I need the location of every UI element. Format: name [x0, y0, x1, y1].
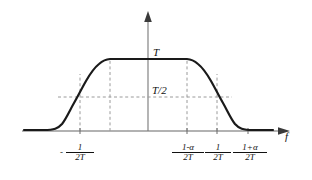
- minus-sign-icon: -: [60, 148, 63, 157]
- y-axis-label-T-half: T/2: [152, 85, 167, 96]
- y-axis-arrow-icon: [144, 11, 152, 22]
- fraction-denominator: 2T: [205, 153, 231, 162]
- fraction-denominator: 2T: [172, 153, 204, 162]
- y-axis-label-T: T: [153, 47, 159, 58]
- x-tick-label-1-over-2T: 1 2T: [205, 143, 231, 163]
- x-axis-arrow-icon: [278, 127, 290, 135]
- x-tick-label-1-plus-alpha-over-2T: 1+α 2T: [233, 143, 267, 163]
- fraction-denominator: 2T: [233, 153, 267, 162]
- fraction-denominator: 2T: [66, 153, 94, 162]
- x-tick-label-1-minus-alpha-over-2T: 1-α 2T: [172, 143, 204, 163]
- x-axis-label-f: f: [285, 131, 288, 142]
- x-tick-label-neg-1-over-2T: - 1 2T: [66, 143, 94, 163]
- raised-cosine-spectrum-figure: T T/2 f - 1 2T 1-α 2T 1 2T 1+α 2T: [0, 0, 312, 180]
